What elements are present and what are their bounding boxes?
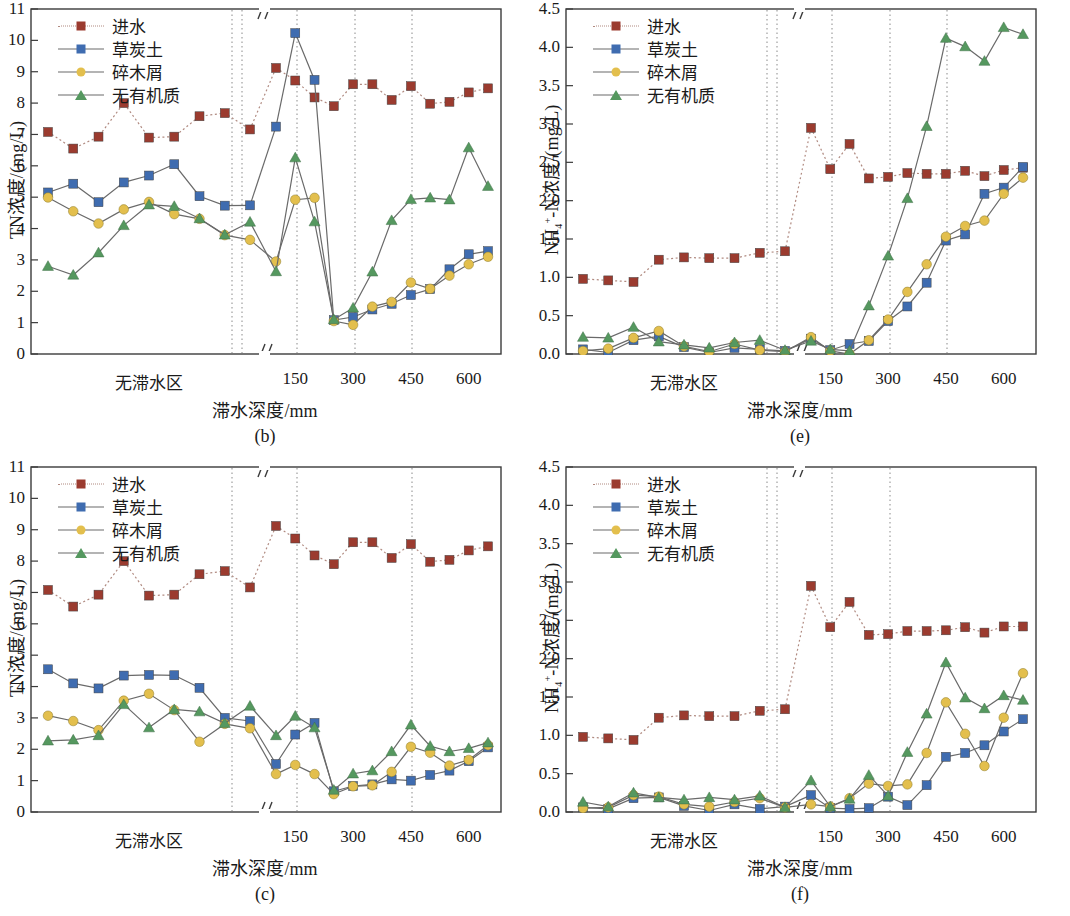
legend-item-wood_chips[interactable]: 碎木屑 [593, 518, 715, 541]
series-line [811, 128, 1023, 179]
legend-marker-influent [612, 21, 621, 30]
x-tick-label-300: 300 [875, 827, 901, 847]
data-point-wood_chips [425, 284, 435, 294]
data-point-influent [387, 95, 396, 104]
data-point-influent [69, 602, 78, 611]
data-point-influent [903, 169, 912, 178]
data-point-wood_chips [1018, 668, 1028, 678]
legend-label-no_organic: 无有机质 [647, 540, 715, 565]
legend-swatch-peat_soil [58, 500, 104, 514]
data-point-no_organic [979, 703, 990, 713]
data-point-peat_soil [170, 671, 179, 680]
data-point-no_organic [921, 708, 932, 718]
data-point-peat_soil [1019, 162, 1028, 171]
data-point-influent [755, 706, 764, 715]
data-point-influent [604, 276, 613, 285]
legend-item-influent[interactable]: 进水 [58, 472, 180, 495]
data-point-peat_soil [272, 760, 281, 769]
data-point-influent [220, 567, 229, 576]
data-point-wood_chips [43, 193, 53, 203]
legend-marker-wood_chips [77, 525, 86, 534]
y-tick-label: 11 [9, 0, 30, 19]
chart-panel-b: TN浓度/(mg/L) 01234567891011 无滞水区150300450… [0, 0, 535, 458]
legend-item-influent[interactable]: 进水 [58, 14, 180, 37]
axis-break-mark [258, 8, 272, 19]
data-point-influent [980, 628, 989, 637]
data-point-peat_soil [170, 160, 179, 169]
y-tick-label: 1 [17, 771, 31, 791]
data-point-peat_soil [980, 741, 989, 750]
legend-label-wood_chips: 碎木屑 [112, 59, 163, 84]
series-line [48, 205, 250, 275]
legend-label-wood_chips: 碎木屑 [647, 517, 698, 542]
data-point-influent [329, 102, 338, 111]
data-point-no_organic [290, 152, 301, 162]
series-line [811, 663, 1023, 807]
data-point-influent [755, 248, 764, 257]
legend-swatch-influent [58, 477, 104, 491]
data-point-wood_chips [941, 698, 951, 708]
data-point-no_organic [271, 266, 282, 276]
y-tick-label: 3 [17, 250, 31, 270]
legend-item-peat_soil[interactable]: 草炭土 [593, 37, 715, 60]
data-point-wood_chips [245, 723, 255, 733]
data-point-influent [246, 583, 255, 592]
legend-item-wood_chips[interactable]: 碎木屑 [58, 60, 180, 83]
legend-item-no_organic[interactable]: 无有机质 [58, 541, 180, 564]
data-point-peat_soil [220, 201, 229, 210]
data-point-no_organic [118, 220, 129, 230]
data-point-no_organic [245, 700, 256, 710]
data-point-wood_chips [960, 729, 970, 739]
data-point-no_organic [998, 22, 1009, 32]
y-tick-label: 2.0 [539, 649, 565, 669]
data-point-no_organic [902, 193, 913, 203]
legend-item-influent[interactable]: 进水 [593, 14, 715, 37]
series-wood_chips [43, 689, 493, 799]
x-axis-title-f: 滞水深度/mm [565, 854, 1035, 880]
legend-label-wood_chips: 碎木屑 [112, 517, 163, 542]
legend-item-no_organic[interactable]: 无有机质 [593, 83, 715, 106]
legend-item-peat_soil[interactable]: 草炭土 [58, 37, 180, 60]
legend-item-wood_chips[interactable]: 碎木屑 [58, 518, 180, 541]
legend-item-no_organic[interactable]: 无有机质 [58, 83, 180, 106]
data-point-wood_chips [94, 219, 104, 229]
data-point-wood_chips [980, 216, 990, 226]
chart-panel-e: NH4+-N浓度/(mg/L) 0.00.51.01.52.02.53.03.5… [535, 0, 1070, 458]
data-point-peat_soil [69, 679, 78, 688]
legend-item-peat_soil[interactable]: 草炭土 [58, 495, 180, 518]
x-tick-label-150: 150 [818, 369, 844, 389]
legend-item-no_organic[interactable]: 无有机质 [593, 541, 715, 564]
legend-item-wood_chips[interactable]: 碎木屑 [593, 60, 715, 83]
legend-item-peat_soil[interactable]: 草炭土 [593, 495, 715, 518]
data-point-peat_soil [291, 730, 300, 739]
data-point-no_organic [578, 797, 589, 807]
data-point-influent [170, 590, 179, 599]
data-point-influent [170, 132, 179, 141]
series-line-bridge [250, 728, 276, 774]
y-tick-label: 0 [17, 802, 31, 822]
data-point-influent [94, 590, 103, 599]
data-point-influent [368, 538, 377, 547]
data-point-peat_soil [272, 122, 281, 131]
data-point-influent [272, 521, 281, 530]
data-point-influent [941, 169, 950, 178]
legend-swatch-no_organic [58, 88, 104, 102]
series-wood_chips [578, 173, 1028, 355]
legend-item-influent[interactable]: 进水 [593, 472, 715, 495]
data-point-wood_chips [864, 335, 874, 345]
legend-swatch-peat_soil [593, 500, 639, 514]
data-point-no_organic [863, 770, 874, 780]
data-point-wood_chips [43, 711, 53, 721]
data-point-wood_chips [310, 769, 320, 779]
data-point-wood_chips [310, 193, 320, 203]
data-point-influent [654, 713, 663, 722]
y-tick-label: 6 [17, 156, 31, 176]
data-point-influent [272, 63, 281, 72]
x-tick-label-600: 600 [991, 369, 1017, 389]
data-point-wood_chips [578, 346, 588, 355]
data-point-influent [845, 139, 854, 148]
legend-swatch-peat_soil [58, 42, 104, 56]
data-point-no_organic [463, 142, 474, 152]
axis-break-mark [258, 344, 272, 355]
legend-swatch-no_organic [593, 546, 639, 560]
